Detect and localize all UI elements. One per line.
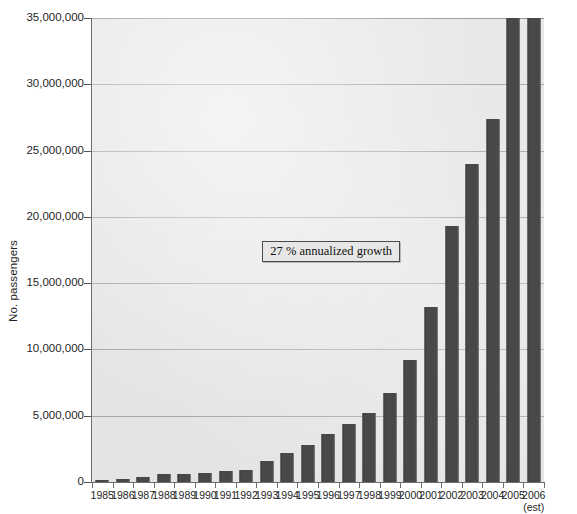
y-tick-label: 20,000,000 [6, 211, 84, 223]
y-tick-label: 25,000,000 [6, 145, 84, 157]
bar[interactable] [486, 119, 499, 482]
growth-annotation: 27 % annualized growth [262, 241, 400, 262]
x-tick-mark [482, 483, 483, 488]
bar[interactable] [260, 461, 273, 482]
bar-slot [503, 18, 524, 482]
x-tick-mark [277, 483, 278, 488]
x-tick-mark [318, 483, 319, 488]
bar-slot [174, 18, 195, 482]
bar-slot [195, 18, 216, 482]
x-tick-mark [441, 483, 442, 488]
bar-slot [133, 18, 154, 482]
bar[interactable] [445, 226, 458, 482]
bar[interactable] [424, 307, 437, 482]
y-tick-mark [84, 283, 91, 284]
passenger-growth-chart: No. passengers 35,000,00030,000,00025,00… [0, 0, 577, 514]
x-tick-mark [215, 483, 216, 488]
x-tick-mark [195, 483, 196, 488]
x-tick-mark [400, 483, 401, 488]
bar[interactable] [383, 393, 396, 482]
x-axis-labels: 1985198619871988198919901991199219931994… [92, 489, 544, 503]
y-tick-mark [84, 349, 91, 350]
y-tick-mark [84, 416, 91, 417]
bar[interactable] [507, 18, 520, 482]
x-tick-mark [133, 483, 134, 488]
bar[interactable] [527, 18, 540, 482]
y-tick-mark [84, 482, 91, 483]
y-tick-label: 15,000,000 [6, 277, 84, 289]
y-tick-mark [84, 84, 91, 85]
y-axis-line [91, 18, 92, 483]
x-tick-mark [236, 483, 237, 488]
bar-slot [421, 18, 442, 482]
bar[interactable] [178, 474, 191, 482]
bar-slot [236, 18, 257, 482]
bar[interactable] [281, 453, 294, 482]
y-tick-label: 0 [6, 476, 84, 488]
x-tick-mark [544, 483, 545, 488]
bar[interactable] [466, 164, 479, 482]
x-tick-mark [113, 483, 114, 488]
x-tick-mark [503, 483, 504, 488]
x-tick-mark [256, 483, 257, 488]
bar[interactable] [157, 474, 170, 482]
y-tick-label: 35,000,000 [6, 12, 84, 24]
bar-slot [441, 18, 462, 482]
bar[interactable] [301, 445, 314, 482]
bar-slot [482, 18, 503, 482]
x-tick-mark [462, 483, 463, 488]
y-tick-label: 30,000,000 [6, 79, 84, 91]
y-tick-mark [84, 18, 91, 19]
x-tick-mark [297, 483, 298, 488]
bar[interactable] [342, 424, 355, 482]
bar[interactable] [219, 471, 232, 482]
x-tick-mark [154, 483, 155, 488]
x-tick-mark [380, 483, 381, 488]
x-tick-mark [421, 483, 422, 488]
x-tick-mark [174, 483, 175, 488]
bar-slot [113, 18, 134, 482]
bar-slot [523, 18, 544, 482]
x-axis-sub-label: (est) [523, 501, 544, 513]
x-tick-mark [359, 483, 360, 488]
x-tick-mark [339, 483, 340, 488]
bar[interactable] [240, 470, 253, 482]
bar[interactable] [363, 413, 376, 482]
bar-slot [92, 18, 113, 482]
y-tick-label: 5,000,000 [6, 410, 84, 422]
bar-slot [400, 18, 421, 482]
y-tick-label: 10,000,000 [6, 344, 84, 356]
bar[interactable] [404, 360, 417, 482]
bar-slot [462, 18, 483, 482]
x-tick-mark [523, 483, 524, 488]
bar-slot [215, 18, 236, 482]
bar-slot [154, 18, 175, 482]
bar[interactable] [198, 473, 211, 482]
y-tick-mark [84, 151, 91, 152]
bar[interactable] [322, 434, 335, 482]
y-tick-mark [84, 217, 91, 218]
x-tick-mark [92, 483, 93, 488]
